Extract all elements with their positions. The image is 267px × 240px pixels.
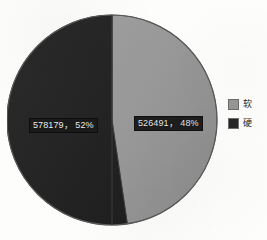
legend-item-soft[interactable]: 软 [228,98,252,111]
legend-label-soft: 软 [243,99,252,110]
data-label-hard: 578179， 52% [30,119,97,132]
legend-item-hard[interactable]: 硬 [228,117,252,130]
legend-swatch-hard-icon [228,118,239,129]
chart-canvas: 578179， 52% 526491， 48% 软 硬 [0,0,267,240]
legend-label-hard: 硬 [243,118,252,129]
data-label-soft: 526491， 48% [135,117,202,130]
legend-swatch-soft-icon [228,99,239,110]
chart-legend: 软 硬 [228,98,252,130]
